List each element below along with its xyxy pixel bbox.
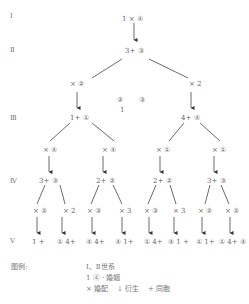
legend-marriage-couple: 1 ④ · 婚姻	[86, 273, 170, 284]
node-gen3-right: 4+ ④	[181, 114, 200, 122]
legend-sibling: + 同胞	[148, 285, 170, 293]
node-gen2-marriage-right: × 2	[189, 80, 202, 88]
legend-title: 图例:	[11, 262, 27, 273]
node-gen3-op-3: × ①	[156, 146, 170, 154]
node-gen4-op-7: × ②	[198, 207, 212, 215]
node-gen3-left: 1+ ①	[70, 114, 89, 122]
node-gen5-6: ④ 1 +	[168, 238, 189, 246]
node-gen4-4: 3+ ③	[207, 177, 226, 185]
node-gen2-siblings: 3+ ③	[125, 47, 144, 55]
node-gen4-op-1: × ②	[33, 207, 47, 215]
legend-descent: ↓ 衍生	[117, 285, 139, 293]
node-gen5-3: ④ 4+	[86, 238, 105, 246]
node-gen1-couple: 1 × ④	[122, 15, 143, 23]
legend-marry: × 婚配	[86, 285, 108, 293]
middle-note-a: ②	[117, 96, 123, 104]
node-gen4-3: 2+ ②	[153, 177, 172, 185]
node-gen4-2: 2+ ②	[96, 177, 115, 185]
node-gen5-7: ① 1+	[196, 238, 215, 246]
node-gen5-8: ① 4+ ④	[219, 238, 246, 246]
middle-note-c: 1	[120, 106, 124, 114]
node-gen3-op-1: × ④	[43, 146, 57, 154]
node-gen4-op-4: × 3	[119, 207, 132, 215]
node-gen3-op-4: × ①	[212, 146, 226, 154]
node-gen4-1: 3+ ③	[39, 177, 58, 185]
legend-symbols: × 婚配 ↓ 衍生 + 同胞	[86, 284, 170, 295]
middle-note-b: ③	[139, 96, 145, 104]
legend: Ⅰ、Ⅱ世系 1 ④ · 婚姻 × 婚配 ↓ 衍生 + 同胞	[86, 262, 170, 295]
node-gen4-op-8: × ②	[225, 207, 239, 215]
node-gen3-op-2: × ④	[102, 146, 116, 154]
node-gen2-marriage-left: × ②	[70, 80, 84, 88]
node-gen5-2: ① 4+	[57, 238, 76, 246]
node-gen5-4: ④ 1+	[115, 238, 134, 246]
legend-generation: Ⅰ、Ⅱ世系	[86, 262, 170, 273]
node-gen5-5: ① 4+	[144, 238, 163, 246]
node-gen4-op-6: × 3	[173, 207, 186, 215]
node-gen5-1: 1 +	[32, 238, 45, 246]
node-gen4-op-5: × ③	[144, 207, 158, 215]
node-gen4-op-3: × ③	[87, 207, 101, 215]
node-gen4-op-2: × 2	[63, 207, 76, 215]
